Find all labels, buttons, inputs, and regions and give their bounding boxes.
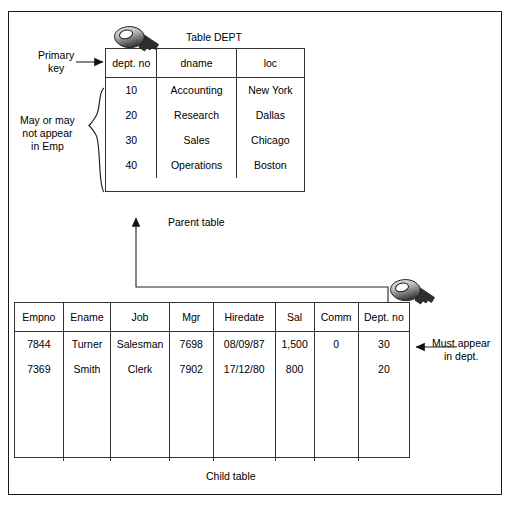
table-row: 10 Accounting New York <box>106 78 304 103</box>
dept-cell-loc: Dallas <box>237 103 304 128</box>
child-table-caption: Child table <box>206 470 256 482</box>
dept-cell-dname: Sales <box>157 128 236 153</box>
dept-cell-dname: Research <box>157 103 236 128</box>
dept-cell-loc: Chicago <box>237 128 304 153</box>
emp-cell-comm <box>315 357 359 382</box>
primary-key-annotation: Primary key <box>38 49 74 75</box>
emp-column-header-empno: Empno <box>15 303 64 331</box>
dept-cell-loc: Boston <box>237 153 304 178</box>
emp-cell-sal: 800 <box>276 357 315 382</box>
emp-header-row: Empno Ename Job Mgr Hiredate Sal Comm De… <box>15 303 409 332</box>
emp-cell-empno: 7844 <box>15 332 64 357</box>
dept-cell-loc: New York <box>237 78 304 103</box>
emp-empty-rows-area <box>15 382 409 461</box>
emp-cell-comm: 0 <box>315 332 359 357</box>
primary-key-label-line1: Primary <box>38 49 74 62</box>
may-label-line2: not appear <box>20 127 75 140</box>
emp-cell-empno: 7369 <box>15 357 64 382</box>
dept-table: dept. no dname loc 10 Accounting New Yor… <box>105 48 305 192</box>
may-label-line3: in Emp <box>20 140 75 153</box>
table-row: 40 Operations Boston <box>106 153 304 178</box>
table-row: 7369 Smith Clerk 7902 17/12/80 800 20 <box>15 357 409 382</box>
dept-cell-deptno: 30 <box>106 128 157 153</box>
emp-cell-ename: Turner <box>64 332 112 357</box>
emp-column-header-mgr: Mgr <box>170 303 214 331</box>
emp-cell-hiredate: 17/12/80 <box>214 357 276 382</box>
table-row: 7844 Turner Salesman 7698 08/09/87 1,500… <box>15 332 409 357</box>
primary-key-label-line2: key <box>38 62 74 75</box>
dept-header-row: dept. no dname loc <box>106 49 304 78</box>
emp-column-header-comm: Comm <box>315 303 359 331</box>
emp-column-header-job: Job <box>111 303 169 331</box>
emp-column-header-hiredate: Hiredate <box>214 303 276 331</box>
must-label-line1: Must appear <box>432 337 490 350</box>
emp-cell-deptno: 20 <box>359 357 409 382</box>
may-label-line1: May or may <box>20 114 75 127</box>
emp-column-header-deptno: Dept. no <box>359 303 409 331</box>
dept-column-header-loc: loc <box>237 49 304 77</box>
dept-cell-dname: Operations <box>157 153 236 178</box>
dept-cell-deptno: 10 <box>106 78 157 103</box>
emp-cell-mgr: 7698 <box>170 332 214 357</box>
emp-cell-deptno: 30 <box>359 332 409 357</box>
emp-table: Empno Ename Job Mgr Hiredate Sal Comm De… <box>14 302 410 458</box>
dept-cell-deptno: 40 <box>106 153 157 178</box>
emp-column-header-sal: Sal <box>276 303 315 331</box>
emp-cell-job: Salesman <box>111 332 169 357</box>
dept-column-header-deptno: dept. no <box>106 49 157 77</box>
dept-cell-dname: Accounting <box>157 78 236 103</box>
parent-table-caption: Parent table <box>168 216 225 228</box>
emp-cell-mgr: 7902 <box>170 357 214 382</box>
emp-cell-sal: 1,500 <box>276 332 315 357</box>
table-row: 30 Sales Chicago <box>106 128 304 153</box>
must-label-line2: in dept. <box>432 350 490 363</box>
emp-cell-hiredate: 08/09/87 <box>214 332 276 357</box>
must-appear-annotation: Must appear in dept. <box>432 337 490 363</box>
table-row: 20 Research Dallas <box>106 103 304 128</box>
dept-column-header-dname: dname <box>157 49 236 77</box>
may-or-may-not-appear-annotation: May or may not appear in Emp <box>20 114 75 153</box>
emp-cell-job: Clerk <box>111 357 169 382</box>
emp-column-header-ename: Ename <box>64 303 112 331</box>
emp-cell-ename: Smith <box>64 357 112 382</box>
dept-cell-deptno: 20 <box>106 103 157 128</box>
dept-table-title: Table DEPT <box>186 31 242 43</box>
